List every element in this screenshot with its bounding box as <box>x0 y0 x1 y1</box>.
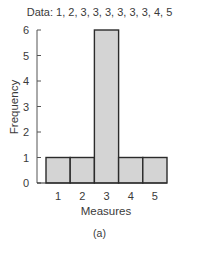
y-tick-label: 3 <box>23 101 29 113</box>
x-tick-label: 4 <box>128 190 134 202</box>
x-tick-label: 5 <box>152 190 158 202</box>
bars <box>46 30 167 183</box>
y-tick-label: 0 <box>23 177 29 189</box>
figure-caption: (a) <box>0 227 199 239</box>
y-tick-label: 4 <box>23 75 29 87</box>
bar-1 <box>46 158 70 184</box>
x-axis: 12345 <box>37 183 167 202</box>
y-tick-label: 5 <box>23 50 29 62</box>
bar-4 <box>119 158 143 184</box>
y-tick-label: 6 <box>23 24 29 36</box>
x-tick-label: 2 <box>79 190 85 202</box>
bar-5 <box>143 158 167 184</box>
y-tick-label: 2 <box>23 126 29 138</box>
x-axis-label: Measures <box>81 205 132 217</box>
bar-2 <box>70 158 94 184</box>
y-tick-label: 1 <box>23 152 29 164</box>
y-axis: 0123456 <box>23 24 41 189</box>
histogram-plot: 0123456 12345 Frequency Measures <box>0 0 199 254</box>
bar-3 <box>94 30 118 183</box>
y-axis-label: Frequency <box>8 80 20 135</box>
x-tick-label: 1 <box>55 190 61 202</box>
x-tick-label: 3 <box>103 190 109 202</box>
